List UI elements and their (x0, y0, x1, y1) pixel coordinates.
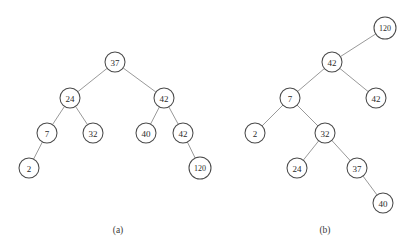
tree-node: 7 (280, 88, 300, 108)
node-label: 42 (328, 58, 337, 68)
node-label: 32 (321, 129, 330, 139)
tree-edge (52, 106, 64, 124)
tree-edge (262, 105, 283, 126)
tree-node: 42 (322, 52, 342, 72)
tree-node: 120 (374, 17, 396, 39)
tree-edge (303, 141, 319, 160)
node-label: 37 (353, 164, 363, 174)
node-label: 2 (27, 164, 32, 174)
node-label: 40 (379, 199, 389, 209)
tree-edge (363, 176, 377, 195)
tree-node: 2 (19, 158, 39, 178)
panel-caption: (a) (113, 225, 124, 236)
tree-node: 120 (189, 157, 211, 179)
node-label: 42 (160, 94, 169, 104)
nodes-layer: 3724427324042212012042742232243740 (19, 17, 396, 213)
tree-edge (187, 142, 195, 158)
tree-edge (75, 106, 87, 124)
tree-node: 24 (287, 158, 307, 178)
node-label: 120 (379, 24, 391, 33)
node-label: 32 (89, 129, 98, 139)
node-label: 24 (66, 94, 76, 104)
tree-node: 42 (154, 88, 174, 108)
binary-tree-figure: 3724427324042212012042742232243740 (a)(b… (0, 0, 416, 252)
captions-layer: (a)(b) (113, 225, 331, 236)
tree-node: 37 (105, 52, 125, 72)
node-label: 120 (194, 164, 206, 173)
tree-node: 37 (347, 158, 367, 178)
tree-edge (297, 105, 318, 126)
tree-edge (340, 34, 375, 57)
node-label: 42 (179, 129, 188, 139)
tree-edge (34, 142, 43, 159)
node-label: 24 (293, 164, 303, 174)
tree-node: 32 (315, 123, 335, 143)
tree-node: 42 (366, 88, 386, 108)
tree-node: 2 (245, 123, 265, 143)
tree-edge (169, 107, 178, 124)
node-label: 40 (142, 129, 152, 139)
node-label: 42 (372, 94, 381, 104)
tree-node: 24 (60, 88, 80, 108)
tree-edge (151, 107, 160, 124)
node-label: 37 (111, 58, 121, 68)
tree-edge (298, 69, 325, 92)
node-label: 7 (288, 94, 293, 104)
tree-edge (123, 68, 156, 92)
node-label: 7 (45, 129, 50, 139)
tree-node: 40 (373, 193, 393, 213)
panel-caption: (b) (319, 225, 330, 236)
tree-node: 40 (136, 123, 156, 143)
tree-edge (78, 68, 107, 92)
node-label: 2 (253, 129, 258, 139)
tree-edge (332, 140, 351, 160)
tree-edge (340, 68, 369, 91)
tree-node: 32 (83, 123, 103, 143)
tree-node: 42 (173, 123, 193, 143)
tree-node: 7 (37, 123, 57, 143)
